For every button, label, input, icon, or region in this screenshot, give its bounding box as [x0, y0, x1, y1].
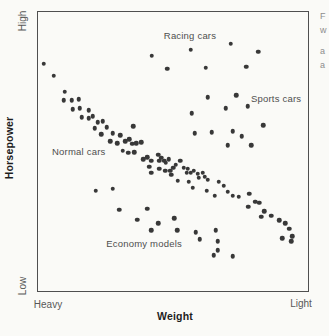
data-point [87, 108, 92, 113]
data-point [131, 124, 136, 129]
data-point [193, 131, 198, 136]
data-point [175, 228, 180, 233]
data-point [215, 248, 220, 253]
data-point [223, 106, 228, 111]
data-point [234, 93, 239, 98]
data-point [209, 130, 214, 135]
caption-fragment: w [320, 25, 327, 35]
data-point [100, 119, 105, 124]
data-point [150, 54, 155, 59]
data-point [147, 165, 152, 170]
x-axis-heavy-label: Heavy [34, 299, 62, 310]
data-point [117, 207, 122, 212]
data-point [165, 66, 170, 71]
data-point [277, 218, 282, 223]
data-point [194, 230, 199, 235]
data-point [190, 111, 195, 116]
caption-fragment: F [320, 11, 326, 21]
data-point [206, 95, 211, 100]
data-point [205, 189, 210, 194]
data-point [259, 214, 264, 219]
data-point [90, 114, 95, 119]
data-point [280, 236, 285, 241]
data-point [92, 126, 97, 131]
data-point [118, 133, 123, 138]
data-point [149, 171, 154, 176]
data-point [93, 189, 98, 194]
data-point [110, 131, 115, 136]
data-point [120, 149, 125, 154]
data-point [225, 143, 230, 148]
x-axis-light-label: Light [290, 298, 312, 309]
data-point [95, 120, 100, 125]
cluster-label: Economy models [106, 238, 182, 249]
data-point [185, 171, 190, 176]
data-point [135, 217, 140, 222]
data-point [163, 169, 168, 174]
data-point [247, 191, 252, 196]
data-point [206, 177, 211, 182]
y-axis-title: Horsepower [3, 117, 15, 180]
data-point [172, 216, 177, 221]
data-point [245, 104, 250, 109]
data-point [287, 226, 292, 231]
caption-fragment: a [320, 46, 325, 56]
data-point [239, 134, 244, 139]
data-point [228, 42, 233, 47]
data-point [230, 193, 235, 198]
data-point [290, 234, 295, 239]
plot-area: Racing carsSports carsNormal carsEconomy… [37, 11, 309, 292]
data-point [176, 179, 181, 184]
data-point [126, 151, 131, 156]
data-point [203, 65, 208, 70]
data-point [77, 97, 82, 102]
data-point [139, 140, 144, 145]
data-point [215, 239, 220, 244]
data-point [77, 106, 82, 111]
data-point [213, 228, 218, 233]
data-point [149, 159, 154, 164]
data-point [189, 47, 194, 52]
data-point [249, 143, 254, 148]
data-point [244, 64, 249, 69]
data-point [132, 150, 137, 155]
data-point [104, 125, 109, 130]
data-point [289, 239, 294, 244]
caption-fragment: a [320, 60, 325, 70]
data-point [62, 89, 67, 94]
data-point [79, 115, 84, 120]
cluster-label: Racing cars [164, 29, 216, 40]
data-point [262, 209, 267, 214]
data-point [169, 173, 174, 178]
data-point [149, 228, 154, 233]
data-point [191, 186, 196, 191]
data-point [216, 180, 221, 185]
data-point [261, 123, 266, 128]
cluster-label: Normal cars [52, 145, 105, 156]
data-point [157, 167, 162, 172]
data-point [236, 194, 241, 199]
y-axis-low-label: Low [17, 277, 28, 295]
data-point [71, 107, 76, 112]
data-point [167, 157, 172, 162]
y-axis-high-label: High [17, 11, 28, 32]
data-point [256, 49, 261, 54]
data-point [283, 221, 288, 226]
data-point [225, 189, 230, 194]
data-point [62, 98, 67, 103]
data-point [110, 186, 115, 191]
data-point [178, 159, 183, 164]
data-point [246, 204, 251, 209]
data-point [134, 141, 139, 146]
data-point [212, 193, 217, 198]
data-point [52, 73, 57, 78]
x-axis-title: Weight [157, 310, 193, 322]
data-point [145, 206, 150, 211]
data-point [212, 253, 217, 258]
data-point [197, 237, 202, 242]
data-point [115, 141, 120, 146]
data-point [108, 139, 113, 144]
data-point [164, 161, 169, 166]
data-point [99, 132, 104, 137]
data-point [156, 221, 161, 226]
